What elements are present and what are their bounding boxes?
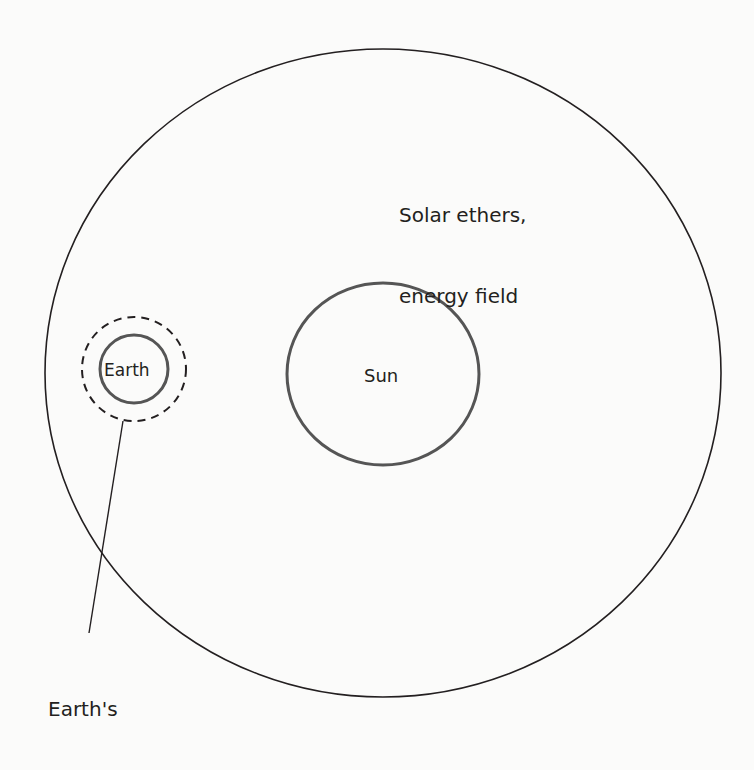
earth-label: Earth: [104, 358, 150, 382]
solar-field-label-line2: energy field: [399, 283, 526, 310]
sun-label: Sun: [364, 364, 398, 388]
solar-field-label-line1: Solar ethers,: [399, 202, 526, 229]
earth-field-label-line1: Earth's: [48, 696, 220, 723]
earth-field-leader-line: [89, 421, 123, 633]
earth-field-label: Earth's planetary ethers, energy field: [48, 642, 220, 770]
solar-field-label: Solar ethers, energy field: [399, 148, 526, 337]
